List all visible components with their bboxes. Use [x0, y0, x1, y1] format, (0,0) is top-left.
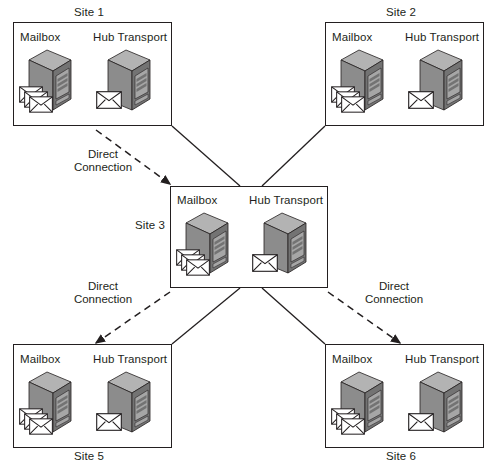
envelope-icon-hub_transport-site1: [96, 91, 122, 113]
link-site2-site3: [262, 126, 325, 186]
role-label-hub_transport-site2: Hub Transport: [405, 31, 479, 43]
role-label-mailbox-site2: Mailbox: [332, 31, 372, 43]
role-label-hub_transport-site3: Hub Transport: [249, 194, 323, 206]
direct-site1-site3-label: DirectConnection: [74, 148, 132, 173]
envelope-icon-hub_transport-site5: [96, 413, 122, 435]
site-label-site3: Site 3: [135, 219, 165, 231]
site-label-site2: Site 2: [386, 6, 416, 18]
role-label-mailbox-site6: Mailbox: [332, 353, 372, 365]
site-label-site1: Site 1: [74, 6, 104, 18]
direct-site3-site6-label-line2: Connection: [365, 293, 423, 306]
envelope-icon-mailbox-site2: [331, 86, 371, 116]
role-label-hub_transport-site5: Hub Transport: [93, 353, 167, 365]
network-topology-diagram: Site 1Mailbox Hub Transport Site 2Mailbo…: [0, 0, 497, 470]
role-label-hub_transport-site1: Hub Transport: [93, 31, 167, 43]
role-label-mailbox-site3: Mailbox: [177, 194, 217, 206]
role-label-hub_transport-site6: Hub Transport: [405, 353, 479, 365]
direct-site3-site6-label: DirectConnection: [365, 280, 423, 305]
envelope-icon-mailbox-site6: [331, 408, 371, 438]
direct-site3-site5-label: DirectConnection: [74, 280, 132, 305]
envelope-icon-mailbox-site3: [176, 249, 216, 279]
direct-site1-site3-label-line1: Direct: [74, 148, 132, 161]
direct-site3-site5-label-line2: Connection: [74, 293, 132, 306]
role-label-mailbox-site1: Mailbox: [20, 31, 60, 43]
link-site3-site5: [172, 288, 240, 344]
site-label-site6: Site 6: [386, 450, 416, 462]
envelope-icon-hub_transport-site6: [408, 413, 434, 435]
direct-site3-site6-label-line1: Direct: [365, 280, 423, 293]
direct-site1-site3-label-line2: Connection: [74, 161, 132, 174]
role-label-mailbox-site5: Mailbox: [20, 353, 60, 365]
link-site1-site3: [172, 126, 240, 186]
envelope-icon-mailbox-site5: [19, 408, 59, 438]
direct-site3-site5-label-line1: Direct: [74, 280, 132, 293]
site-label-site5: Site 5: [74, 450, 104, 462]
envelope-icon-mailbox-site1: [19, 86, 59, 116]
link-site3-site6: [262, 288, 325, 344]
envelope-icon-hub_transport-site3: [252, 254, 278, 276]
envelope-icon-hub_transport-site2: [408, 91, 434, 113]
